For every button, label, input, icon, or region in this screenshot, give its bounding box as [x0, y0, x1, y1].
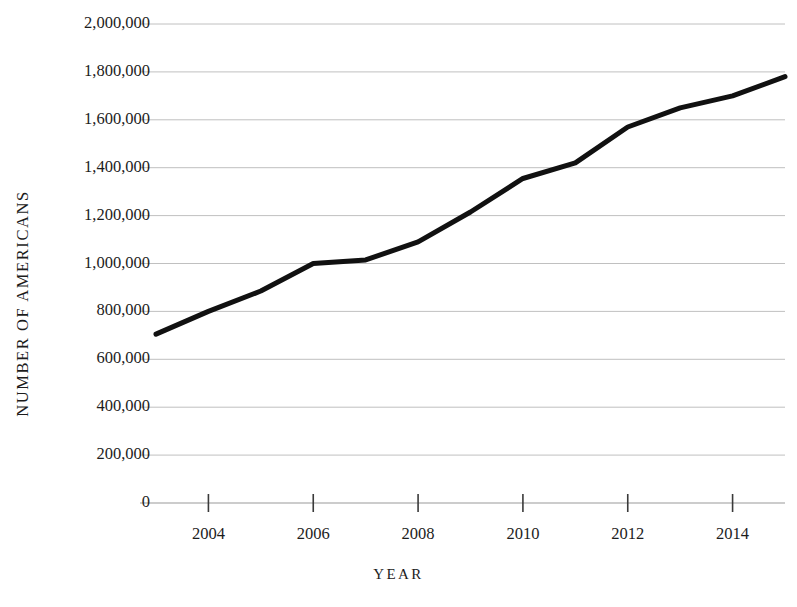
y-axis-tick-label: 1,600,000 — [84, 111, 150, 128]
y-axis-tick-label: 1,400,000 — [84, 159, 150, 176]
y-axis-tick-label: 800,000 — [96, 302, 150, 319]
y-axis-tick-label: 1,000,000 — [84, 255, 150, 272]
x-axis-tick-label: 2010 — [506, 526, 539, 543]
data-series-line — [156, 77, 785, 334]
y-axis-tick-label: 600,000 — [96, 350, 150, 367]
gridlines — [140, 24, 785, 503]
x-axis-tick-label: 2006 — [297, 526, 330, 543]
y-axis-tick-label: 1,200,000 — [84, 207, 150, 224]
y-axis-tick-label: 200,000 — [96, 446, 150, 463]
x-axis-tick-label: 2004 — [192, 526, 225, 543]
y-axis-tick-label: 1,800,000 — [84, 63, 150, 80]
y-axis-tick-label: 2,000,000 — [84, 15, 150, 32]
x-axis-tick-label: 2012 — [611, 526, 644, 543]
x-axis-tick-label: 2014 — [716, 526, 749, 543]
line-chart: NUMBER OF AMERICANS YEAR 0200,000400,000… — [0, 0, 797, 607]
y-axis-tick-label: 0 — [142, 494, 150, 511]
y-axis-tick-label: 400,000 — [96, 398, 150, 415]
x-axis-tick-label: 2008 — [402, 526, 435, 543]
